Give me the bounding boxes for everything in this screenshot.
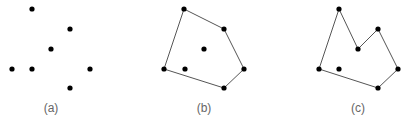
- hull-diagram: (a) (b) (c): [0, 0, 406, 127]
- point: [48, 46, 53, 51]
- point: [375, 26, 380, 31]
- point: [241, 66, 246, 71]
- panel-a: (a): [9, 6, 92, 115]
- point: [375, 85, 380, 90]
- point: [336, 66, 341, 71]
- point: [29, 66, 34, 71]
- point: [67, 26, 72, 31]
- point: [395, 66, 400, 71]
- panel-a-label: (a): [44, 101, 59, 115]
- point: [181, 6, 186, 11]
- point: [221, 85, 226, 90]
- point: [182, 66, 187, 71]
- point: [87, 66, 92, 71]
- point: [9, 66, 14, 71]
- panel-c-label: (c): [351, 101, 365, 115]
- panel-a-points: [9, 6, 92, 90]
- point: [201, 46, 206, 51]
- point: [67, 85, 72, 90]
- point: [336, 6, 341, 11]
- point: [29, 6, 34, 11]
- point: [355, 46, 360, 51]
- panel-b-label: (b): [197, 101, 212, 115]
- point: [221, 26, 226, 31]
- panel-c: (c): [316, 6, 400, 115]
- panel-b: (b): [161, 6, 246, 115]
- point: [316, 66, 321, 71]
- point: [161, 66, 166, 71]
